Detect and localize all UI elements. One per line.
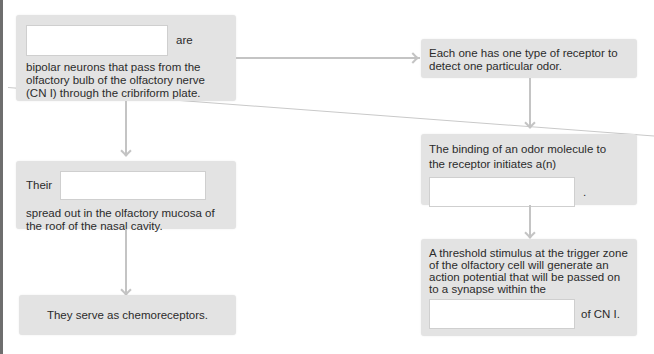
label-period: .: [583, 186, 586, 199]
box-action-potential: A threshold stimulus at the trigger zone…: [421, 239, 637, 336]
box1-text: bipolar neurons that pass from the olfac…: [26, 61, 226, 100]
arrow-down-icon: [524, 227, 535, 238]
connector-right: [236, 57, 420, 59]
blank-input-synapse[interactable]: [429, 299, 575, 329]
box-chemoreceptors: They serve as chemoreceptors.: [19, 295, 236, 335]
box-odor-binding: The binding of an odor molecule to the r…: [421, 134, 637, 205]
right-box3-text: A threshold stimulus at the trigger zone…: [429, 247, 629, 295]
blank-input-odor-binding[interactable]: [429, 177, 575, 207]
right-box2-text: The binding of an odor molecule to the r…: [429, 142, 629, 172]
box-dendrites: Their spread out in the olfactory mucosa…: [16, 161, 236, 229]
flow-diagram: are bipolar neurons that pass from the o…: [0, 0, 654, 354]
box-receptor-type: Each one has one type of receptor to det…: [421, 39, 637, 78]
arrow-down-icon: [120, 284, 131, 295]
arrow-down-icon: [120, 145, 131, 156]
blank-input-dendrites[interactable]: [60, 171, 206, 200]
label-are: are: [176, 34, 193, 47]
label-of-cn-i: of CN I.: [581, 308, 620, 321]
right-box1-text: Each one has one type of receptor to det…: [429, 47, 629, 73]
blank-input-neurons[interactable]: [26, 25, 168, 56]
left-edge-bar: [0, 0, 3, 354]
arrow-right-icon: [407, 52, 418, 63]
box3-text: They serve as chemoreceptors.: [47, 309, 208, 322]
box-olfactory-neurons: are bipolar neurons that pass from the o…: [16, 15, 236, 101]
label-their: Their: [26, 179, 52, 192]
